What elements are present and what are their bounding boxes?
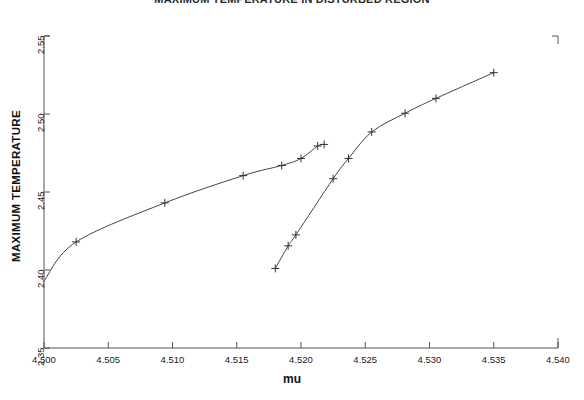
data-point-marker [432,94,440,102]
x-tick-label: 4.510 [143,354,203,365]
x-tick-label: 4.500 [14,354,74,365]
data-point-marker [271,264,279,272]
x-tick-label: 4.535 [464,354,524,365]
data-line-lower-branch [275,73,493,269]
y-tick-label-wrap: 2.40 [0,264,40,276]
x-tick-label: 4.505 [78,354,138,365]
x-tick-label: 4.525 [335,354,395,365]
data-point-marker [284,242,292,250]
y-tick-label-wrap: 2.50 [0,108,40,120]
data-point-marker [72,238,80,246]
x-tick-label: 4.530 [400,354,460,365]
data-point-marker [161,199,169,207]
y-tick-label-wrap: 2.45 [0,186,40,198]
plot-area [0,0,584,400]
y-tick-label: 2.45 [35,192,46,226]
x-tick-label: 4.520 [271,354,331,365]
data-point-marker [297,154,305,162]
x-tick-label: 4.540 [528,354,584,365]
data-point-marker [314,142,322,150]
data-point-marker [278,161,286,169]
y-tick-label: 2.40 [35,270,46,304]
data-point-marker [239,172,247,180]
y-tick-label: 2.55 [35,36,46,70]
y-tick-label: 2.50 [35,114,46,148]
data-point-marker [329,175,337,183]
data-point-marker [401,109,409,117]
x-tick-label: 4.515 [207,354,267,365]
y-tick-label-wrap: 2.35 [0,342,40,354]
data-point-marker [490,69,498,77]
chart-figure: MAXIMUM TEMPERATURE IN DISTURBED REGION … [0,0,584,400]
y-tick-label-wrap: 2.55 [0,30,40,42]
data-point-marker [292,231,300,239]
data-point-marker [320,140,328,148]
